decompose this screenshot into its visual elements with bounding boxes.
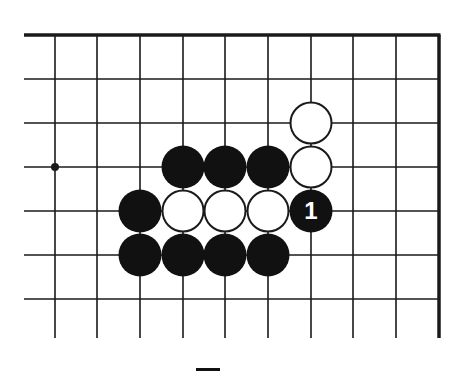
white-stone bbox=[205, 191, 246, 232]
black-stone-icon bbox=[162, 146, 205, 189]
white-stone bbox=[291, 147, 332, 188]
star-points bbox=[51, 163, 59, 171]
black-stone-icon bbox=[204, 146, 247, 189]
black-stone bbox=[119, 234, 162, 277]
black-stone bbox=[204, 234, 247, 277]
black-stone-icon bbox=[204, 234, 247, 277]
white-stone bbox=[291, 103, 332, 144]
black-stone: 1 bbox=[290, 190, 333, 233]
black-stone-icon bbox=[119, 190, 162, 233]
move-number-label: 1 bbox=[304, 197, 317, 224]
white-stone bbox=[248, 191, 289, 232]
black-stone bbox=[162, 234, 205, 277]
white-stone-icon bbox=[163, 191, 204, 232]
white-stone bbox=[163, 191, 204, 232]
black-stone-icon bbox=[162, 234, 205, 277]
white-stone-icon bbox=[291, 103, 332, 144]
black-stone bbox=[247, 234, 290, 277]
black-stone bbox=[162, 146, 205, 189]
go-board-diagram: 1 bbox=[0, 0, 463, 376]
black-stone-icon bbox=[119, 234, 162, 277]
black-stone bbox=[247, 146, 290, 189]
diagram-caption bbox=[196, 368, 220, 376]
black-stone bbox=[119, 190, 162, 233]
white-stone-icon bbox=[248, 191, 289, 232]
white-stone-icon bbox=[205, 191, 246, 232]
black-stone-icon bbox=[247, 146, 290, 189]
white-stone-icon bbox=[291, 147, 332, 188]
black-stone bbox=[204, 146, 247, 189]
black-stone-icon bbox=[247, 234, 290, 277]
star-point-icon bbox=[51, 163, 59, 171]
